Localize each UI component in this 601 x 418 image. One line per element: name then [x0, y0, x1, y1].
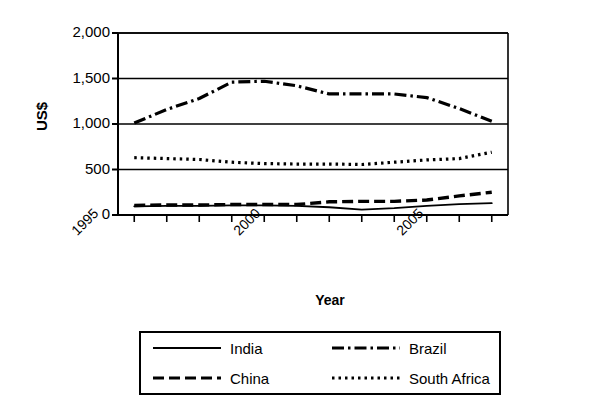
legend-label: China	[230, 370, 269, 387]
x-axis-title: Year	[270, 292, 390, 308]
legend-label: South Africa	[409, 370, 490, 387]
legend: IndiaBrazilChinaSouth Africa	[139, 331, 501, 395]
series-line-china	[134, 192, 492, 205]
legend-item[interactable]: Brazil	[320, 340, 499, 357]
legend-line-sample	[330, 371, 402, 385]
line-chart: US$ 05001,0001,5002,000 199520002005 Yea…	[0, 0, 601, 418]
series-line-south-africa	[134, 152, 492, 164]
legend-line-sample	[330, 341, 402, 355]
legend-item[interactable]: South Africa	[320, 370, 499, 387]
legend-label: Brazil	[409, 340, 447, 357]
legend-item[interactable]: India	[141, 340, 320, 357]
legend-line-sample	[151, 371, 223, 385]
series-line-brazil	[134, 81, 492, 123]
legend-item[interactable]: China	[141, 370, 320, 387]
legend-line-sample	[151, 341, 223, 355]
legend-label: India	[230, 340, 263, 357]
